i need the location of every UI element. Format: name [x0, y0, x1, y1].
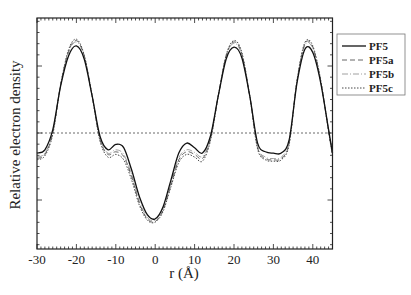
x-tick-label: 40 — [306, 252, 319, 267]
x-tick-label: -10 — [107, 252, 124, 267]
series-line-pf5b — [37, 42, 333, 221]
electron-density-chart: -30-20-10010203040 r (Å) Relative electr… — [0, 0, 411, 295]
series-line-pf5a — [37, 40, 333, 222]
legend-label-pf5a: PF5a — [369, 54, 394, 66]
series-line-pf5 — [37, 46, 333, 219]
x-tick-label: 30 — [267, 252, 280, 267]
series-line-pf5c — [37, 39, 333, 223]
x-tick-label: 0 — [152, 252, 159, 267]
x-tick-label: 20 — [228, 252, 241, 267]
legend-label-pf5: PF5 — [369, 40, 388, 52]
x-axis-title: r (Å) — [169, 265, 199, 282]
legend: PF5PF5aPF5bPF5c — [337, 34, 405, 95]
y-axis-title: Relative electron density — [7, 60, 23, 210]
legend-label-pf5c: PF5c — [369, 82, 393, 94]
x-tick-label: -30 — [28, 252, 45, 267]
plot-area — [37, 39, 333, 223]
x-tick-label: -20 — [68, 252, 85, 267]
legend-label-pf5b: PF5b — [369, 68, 394, 80]
